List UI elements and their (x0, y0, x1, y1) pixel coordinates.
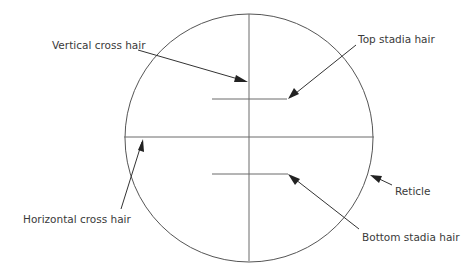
arrowhead-icon (370, 175, 382, 183)
arrowhead-icon (288, 88, 299, 99)
reticle-leader (370, 175, 392, 185)
top-stadia-hair-leader (288, 45, 356, 99)
label-vertical-cross-hair: Vertical cross hair (52, 39, 146, 51)
label-reticle: Reticle (395, 185, 430, 197)
arrowhead-icon (288, 174, 300, 185)
label-bottom-stadia-hair: Bottom stadia hair (362, 231, 460, 243)
arrowhead-icon (234, 75, 248, 82)
label-top-stadia-hair: Top stadia hair (357, 33, 435, 45)
bottom-stadia-hair-leader (288, 174, 359, 229)
vertical-cross-hair-leader (138, 50, 248, 82)
arrowhead-icon (138, 139, 144, 152)
label-horizontal-cross-hair: Horizontal cross hair (23, 213, 132, 225)
reticle-diagram: Vertical cross hair Top stadia hair Hori… (0, 0, 473, 276)
